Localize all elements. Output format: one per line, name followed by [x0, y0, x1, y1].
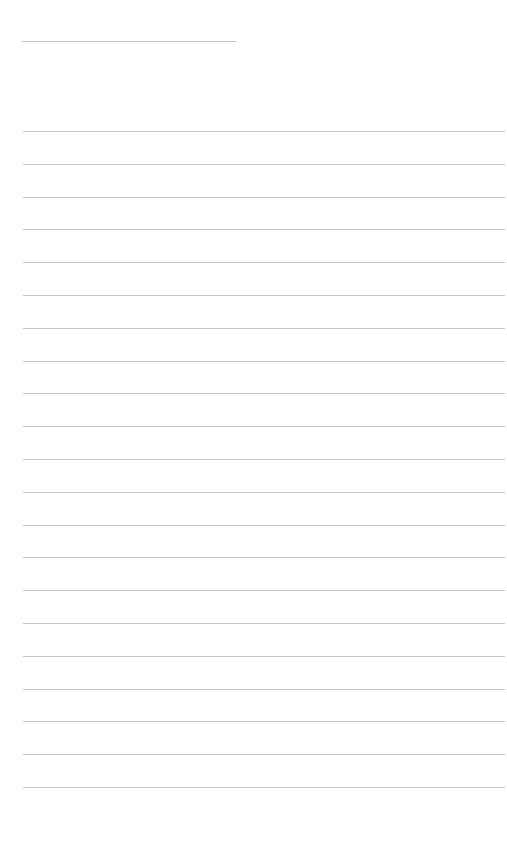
ruled-line — [23, 721, 505, 722]
ruled-line — [23, 590, 505, 591]
title-underline — [22, 41, 236, 42]
ruled-line — [23, 262, 505, 263]
ruled-line — [23, 689, 505, 690]
ruled-line — [23, 328, 505, 329]
ruled-line — [23, 754, 505, 755]
ruled-line — [23, 492, 505, 493]
ruled-line — [23, 656, 505, 657]
ruled-line — [23, 623, 505, 624]
ruled-line — [23, 361, 505, 362]
ruled-line — [23, 131, 505, 132]
ruled-line — [23, 393, 505, 394]
ruled-line — [23, 525, 505, 526]
ruled-line — [23, 459, 505, 460]
ruled-line — [23, 164, 505, 165]
ruled-line — [23, 557, 505, 558]
ruled-line — [23, 426, 505, 427]
ruled-line — [23, 787, 505, 788]
ruled-line — [23, 197, 505, 198]
ruled-line — [23, 229, 505, 230]
ruled-line — [23, 295, 505, 296]
